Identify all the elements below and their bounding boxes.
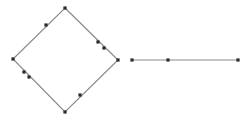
diamond-vertex-top bbox=[63, 6, 66, 9]
diamond-edge-point-upper-right-a bbox=[96, 40, 99, 43]
diamond-vertex-bottom bbox=[63, 110, 66, 113]
segment-midpoint bbox=[166, 58, 169, 61]
segment-endpoint-right bbox=[236, 58, 239, 61]
diamond-edge-point-lower-left-a bbox=[22, 70, 25, 73]
canvas-background bbox=[0, 0, 251, 122]
diamond-vertex-right bbox=[116, 58, 119, 61]
figure-canvas bbox=[0, 0, 251, 122]
diamond-edge-point-upper-left bbox=[44, 23, 47, 26]
diamond-edge-point-lower-right bbox=[78, 93, 81, 96]
diamond-edge-point-upper-right-b bbox=[102, 46, 105, 49]
diamond-edge-point-lower-left-b bbox=[27, 75, 30, 78]
segment-endpoint-left bbox=[130, 58, 133, 61]
diamond-vertex-left bbox=[11, 57, 14, 60]
geometric-figure bbox=[0, 0, 251, 122]
